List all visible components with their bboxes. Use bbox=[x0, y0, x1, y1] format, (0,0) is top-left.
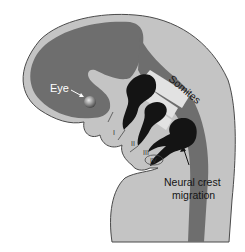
arch-iii-label: III bbox=[143, 149, 149, 156]
neural-crest-label-line1: Neural crest bbox=[164, 176, 221, 188]
arch-i-label: I bbox=[113, 129, 115, 136]
eye-icon bbox=[84, 96, 96, 108]
embryo-diagram: Eye Somites I II III IV Neural crest mig… bbox=[0, 0, 245, 252]
neural-crest-label-line2: migration bbox=[172, 189, 215, 201]
arch-iv-label: IV bbox=[150, 157, 157, 164]
arch-ii-label: II bbox=[131, 140, 135, 147]
eye-label: Eye bbox=[50, 82, 69, 94]
